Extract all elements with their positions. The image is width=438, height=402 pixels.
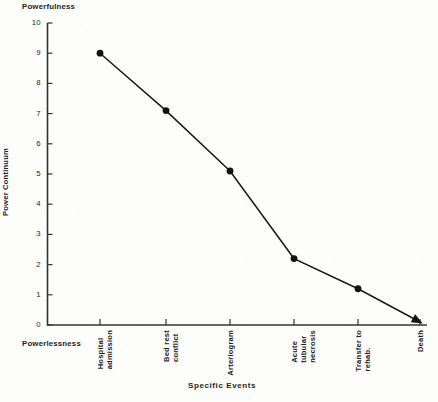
y-tick-label: 2 (29, 260, 41, 269)
data-point-markers (97, 50, 362, 292)
x-tick-label-line: admission (106, 330, 114, 369)
x-tick-label-line: Death (417, 330, 425, 352)
x-tick-label-line: Hospital (97, 330, 105, 369)
y-tick-label: 8 (29, 78, 41, 87)
data-point-marker (163, 107, 170, 114)
x-tick-label-line: rehab. (364, 330, 372, 371)
x-tick-label-line: Acute (291, 330, 299, 363)
y-tick-label: 5 (29, 169, 41, 178)
axis-top-annotation: Powerfulness (22, 2, 75, 11)
x-axis-title: Specific Events (188, 381, 256, 390)
x-tick-label: Death (417, 330, 426, 352)
y-tick-label: 6 (29, 139, 41, 148)
power-continuum-line (100, 53, 420, 322)
chart-figure: Powerfulness Powerlessness Power Continu… (0, 0, 438, 402)
y-tick-label: 4 (29, 199, 41, 208)
x-tick-label: Acutetubularnecrosis (291, 330, 318, 363)
x-tick-label-line: necrosis (309, 330, 317, 363)
x-tick-label: Bed restconflict (163, 330, 181, 362)
data-point-marker (355, 285, 362, 292)
y-axis-title: Power Continuum (1, 202, 10, 216)
chart-axes (47, 23, 427, 326)
y-tick-label: 3 (29, 229, 41, 238)
data-point-marker (227, 168, 234, 175)
x-tick-label-line: conflict (172, 330, 180, 362)
x-tick-label-line: Arteriogram (227, 330, 235, 376)
y-tick-label: 1 (29, 290, 41, 299)
axis-bottom-annotation: Powerlessness (22, 339, 81, 348)
y-tick-label: 10 (29, 18, 41, 27)
x-tick-label: Hospitaladmission (97, 330, 115, 369)
data-point-marker (291, 255, 298, 262)
y-tick-label: 7 (29, 109, 41, 118)
x-tick-marks (100, 319, 420, 325)
x-tick-label-line: Bed rest (163, 330, 171, 362)
x-tick-label-line: tubular (300, 330, 308, 363)
data-point-marker (97, 50, 104, 57)
x-tick-label: Transfer torehab. (355, 330, 373, 371)
y-tick-label: 0 (29, 320, 41, 329)
x-tick-label: Arteriogram (227, 330, 236, 376)
x-tick-label-line: Transfer to (355, 330, 363, 371)
y-tick-label: 9 (29, 48, 41, 57)
